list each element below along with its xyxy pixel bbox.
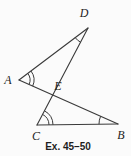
segment-ab-through-e — [19, 80, 118, 124]
figure-caption: Ex. 45–50 — [45, 141, 91, 152]
angle-arc-b — [99, 116, 101, 124]
vertex-label-a: A — [3, 73, 12, 87]
geometry-figure: D A E C B Ex. 45–50 — [0, 0, 131, 156]
angle-arc-a-inner — [28, 73, 30, 84]
diagram-canvas: D A E C B Ex. 45–50 — [0, 0, 131, 156]
segment-ad — [19, 28, 88, 80]
vertex-label-d: D — [79, 6, 89, 20]
angle-arc-c-inner — [43, 114, 49, 125]
vertex-label-b: B — [117, 128, 125, 142]
angle-arc-a-outer — [31, 71, 34, 86]
vertex-label-c: C — [32, 129, 41, 143]
vertex-label-e: E — [53, 79, 62, 93]
angle-arc-d — [75, 38, 80, 43]
